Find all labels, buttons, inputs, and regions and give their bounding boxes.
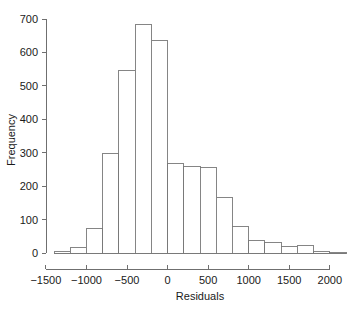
y-tick-label: 700 bbox=[20, 13, 38, 25]
histogram-bar bbox=[232, 227, 248, 253]
x-tick-label: −500 bbox=[115, 274, 140, 286]
histogram-bar bbox=[297, 245, 313, 253]
y-tick-label: 300 bbox=[20, 147, 38, 159]
histogram-figure: 0100200300400500600700 −1500−1000−500050… bbox=[0, 0, 355, 310]
histogram-bar bbox=[135, 24, 151, 253]
x-tick-label: 0 bbox=[164, 274, 170, 286]
histogram-bar bbox=[216, 197, 232, 253]
histogram-bar bbox=[281, 247, 297, 253]
x-tick-label: −1500 bbox=[30, 274, 61, 286]
histogram-svg: 0100200300400500600700 −1500−1000−500050… bbox=[0, 0, 355, 310]
x-tick-label: −1000 bbox=[71, 274, 102, 286]
histogram-bar bbox=[119, 71, 135, 253]
x-tick-label: 500 bbox=[199, 274, 217, 286]
y-tick-label: 100 bbox=[20, 214, 38, 226]
y-tick-label: 200 bbox=[20, 180, 38, 192]
x-axis-title: Residuals bbox=[176, 290, 225, 302]
histogram-bar bbox=[70, 247, 86, 253]
x-tick-label: 1500 bbox=[277, 274, 301, 286]
x-tick-label: 1000 bbox=[236, 274, 260, 286]
y-tick-label: 0 bbox=[32, 247, 38, 259]
histogram-bar bbox=[168, 164, 184, 253]
x-tick-label: 2000 bbox=[318, 274, 342, 286]
y-tick-label: 600 bbox=[20, 46, 38, 58]
histogram-bar bbox=[265, 243, 281, 253]
plot-background bbox=[0, 0, 355, 310]
histogram-bar bbox=[249, 240, 265, 253]
y-axis-title: Frequency bbox=[5, 114, 17, 166]
histogram-bar bbox=[103, 154, 119, 253]
histogram-bar bbox=[184, 166, 200, 253]
y-tick-label: 500 bbox=[20, 80, 38, 92]
histogram-bar bbox=[151, 40, 167, 253]
histogram-bar bbox=[86, 228, 102, 253]
y-tick-label: 400 bbox=[20, 113, 38, 125]
histogram-bar bbox=[200, 168, 216, 253]
